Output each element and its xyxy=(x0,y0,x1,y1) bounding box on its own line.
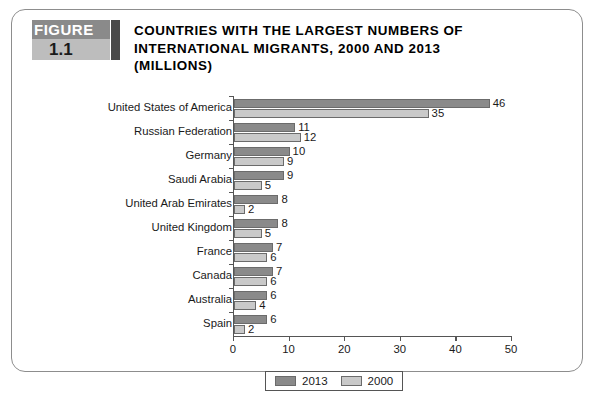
bar-value-2013: 46 xyxy=(493,97,506,109)
category-label: Russian Federation xyxy=(77,125,232,137)
y-axis-tick xyxy=(229,120,233,121)
bar-2013 xyxy=(234,219,278,228)
x-axis-tick-label: 20 xyxy=(338,343,351,355)
bar-2013 xyxy=(234,195,278,204)
category-label: Germany xyxy=(77,149,232,161)
legend-label-2013: 2013 xyxy=(302,375,328,387)
figure-title: COUNTRIES WITH THE LARGEST NUMBERS OF IN… xyxy=(134,22,554,75)
bar-value-2013: 7 xyxy=(276,265,282,277)
legend-label-2000: 2000 xyxy=(368,375,394,387)
category-label: Saudi Arabia xyxy=(77,173,232,185)
bar-2000 xyxy=(234,301,256,310)
bar-2000 xyxy=(234,277,267,286)
bar-value-2000: 5 xyxy=(265,179,271,191)
bar-2013 xyxy=(234,243,273,252)
x-axis-line xyxy=(233,336,511,337)
bar-value-2000: 4 xyxy=(259,299,265,311)
figure-title-line-3: (MILLIONS) xyxy=(134,57,554,75)
y-axis-tick xyxy=(229,168,233,169)
category-label: United States of America xyxy=(77,101,232,113)
y-axis-tick xyxy=(229,192,233,193)
legend-swatch-2000-icon xyxy=(341,376,362,386)
x-axis-tick-label: 40 xyxy=(449,343,462,355)
y-axis-tick xyxy=(229,264,233,265)
figure-header: FIGURE 1.1 COUNTRIES WITH THE LARGEST NU… xyxy=(12,10,582,82)
legend-item-2013[interactable]: 2013 xyxy=(275,375,328,387)
bar-2000 xyxy=(234,325,245,334)
bar-value-2013: 10 xyxy=(293,145,306,157)
bar-value-2013: 6 xyxy=(270,313,276,325)
x-axis-tick-label: 0 xyxy=(230,343,236,355)
bar-value-2000: 6 xyxy=(270,251,276,263)
bar-value-2013: 6 xyxy=(270,289,276,301)
figure-badge-word: FIGURE xyxy=(34,20,94,39)
x-axis-tick xyxy=(455,336,456,341)
chart-legend: 2013 2000 xyxy=(265,371,403,391)
category-axis-labels: United States of AmericaRussian Federati… xyxy=(74,88,232,338)
chart-plot: United States of AmericaRussian Federati… xyxy=(12,88,584,373)
figure-title-line-2: INTERNATIONAL MIGRANTS, 2000 AND 2013 xyxy=(134,40,554,58)
figure-badge: FIGURE 1.1 xyxy=(32,20,122,60)
chart-axis-area: 010203040504635111210995828576766462 xyxy=(233,88,533,346)
legend-swatch-2013-icon xyxy=(275,376,296,386)
y-axis-tick xyxy=(229,216,233,217)
bar-2000 xyxy=(234,133,301,142)
figure-title-line-1: COUNTRIES WITH THE LARGEST NUMBERS OF xyxy=(134,22,554,40)
bar-2000 xyxy=(234,181,262,190)
bar-value-2000: 2 xyxy=(248,323,254,335)
y-axis-tick xyxy=(229,288,233,289)
bar-value-2000: 12 xyxy=(304,131,317,143)
x-axis-tick xyxy=(511,336,512,341)
figure-badge-tab xyxy=(111,20,120,60)
bar-value-2000: 35 xyxy=(432,107,445,119)
bar-2000 xyxy=(234,229,262,238)
legend-item-2000[interactable]: 2000 xyxy=(341,375,394,387)
bar-value-2013: 8 xyxy=(281,193,287,205)
bar-2013 xyxy=(234,147,290,156)
bar-2013 xyxy=(234,123,295,132)
bar-value-2000: 9 xyxy=(287,155,293,167)
x-axis-tick-label: 10 xyxy=(282,343,295,355)
bar-2000 xyxy=(234,157,284,166)
bar-value-2013: 7 xyxy=(276,241,282,253)
x-axis-tick-label: 50 xyxy=(505,343,518,355)
bar-2000 xyxy=(234,253,267,262)
bar-value-2000: 2 xyxy=(248,203,254,215)
y-axis-tick xyxy=(229,144,233,145)
x-axis-tick xyxy=(344,336,345,341)
y-axis-tick xyxy=(229,240,233,241)
category-label: United Arab Emirates xyxy=(77,197,232,209)
x-axis-tick-label: 30 xyxy=(394,343,407,355)
y-axis-tick xyxy=(229,312,233,313)
x-axis-tick xyxy=(233,336,234,341)
figure-badge-number: 1.1 xyxy=(49,39,73,60)
bar-2000 xyxy=(234,109,429,118)
category-label: Spain xyxy=(77,317,232,329)
category-label: Australia xyxy=(77,293,232,305)
bar-value-2000: 5 xyxy=(265,227,271,239)
bar-value-2013: 9 xyxy=(287,169,293,181)
x-axis-tick xyxy=(289,336,290,341)
y-axis-tick xyxy=(229,96,233,97)
x-axis-tick xyxy=(400,336,401,341)
bar-2000 xyxy=(234,205,245,214)
figure-card: FIGURE 1.1 COUNTRIES WITH THE LARGEST NU… xyxy=(11,9,583,372)
category-label: Canada xyxy=(77,269,232,281)
bar-2013 xyxy=(234,99,490,108)
bar-2013 xyxy=(234,267,273,276)
bar-2013 xyxy=(234,171,284,180)
figure-badge-number-band: 1.1 xyxy=(32,39,110,60)
bar-value-2013: 8 xyxy=(281,217,287,229)
figure-badge-word-band: FIGURE xyxy=(32,20,110,39)
category-label: France xyxy=(77,245,232,257)
category-label: United Kingdom xyxy=(77,221,232,233)
bar-value-2000: 6 xyxy=(270,275,276,287)
